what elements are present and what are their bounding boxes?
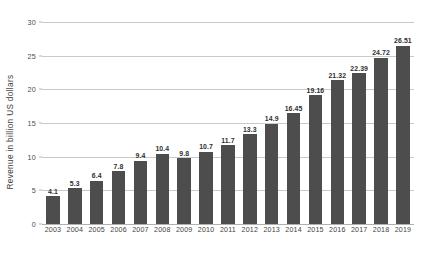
bar-value-label: 4.1 <box>48 188 58 197</box>
bar-slot: 10.7 <box>195 22 217 224</box>
y-axis-tick-label: 20 <box>28 85 36 94</box>
bar <box>331 80 345 224</box>
y-axis-tick-label: 25 <box>28 51 36 60</box>
x-axis-tick-label: 2009 <box>173 226 195 240</box>
x-axis-tick-label: 2010 <box>195 226 217 240</box>
bar-slot: 16.45 <box>283 22 305 224</box>
bar <box>68 188 82 224</box>
x-axis-tick-label: 2004 <box>64 226 86 240</box>
bar-value-label: 14.9 <box>265 115 279 124</box>
bar-value-label: 16.45 <box>285 105 303 114</box>
bar-value-label: 10.7 <box>199 143 213 152</box>
x-axis-tick-labels: 2003200420052006200720082009201020112012… <box>42 226 414 240</box>
y-axis-tick-label: 0 <box>32 220 36 229</box>
y-axis-tick-label: 10 <box>28 152 36 161</box>
bar <box>112 171 126 224</box>
gridline <box>42 224 414 225</box>
bar-slot: 14.9 <box>261 22 283 224</box>
plot-area: 051015202530 4.15.36.47.89.410.49.810.71… <box>42 22 414 224</box>
bar-value-label: 11.7 <box>221 137 234 146</box>
x-axis-tick-label: 2006 <box>108 226 130 240</box>
bar-slot: 19.16 <box>305 22 327 224</box>
bar-slot: 22.39 <box>348 22 370 224</box>
bar <box>243 134 257 224</box>
bar-value-label: 24.72 <box>372 49 390 58</box>
bar-value-label: 9.4 <box>135 152 145 161</box>
bar-slot: 11.7 <box>217 22 239 224</box>
bar-value-label: 19.16 <box>307 87 325 96</box>
x-axis-tick-label: 2008 <box>151 226 173 240</box>
bar-chart: Revenue in billion US dollars 0510152025… <box>0 0 434 264</box>
bar <box>265 124 279 224</box>
bar <box>309 95 323 224</box>
bar <box>199 152 213 224</box>
y-axis-tick-label: 30 <box>28 18 36 27</box>
bar-value-label: 22.39 <box>350 65 368 74</box>
y-axis-tick-label: 15 <box>28 119 36 128</box>
x-axis-tick-label: 2007 <box>130 226 152 240</box>
bar <box>90 181 104 224</box>
bar-value-label: 26.51 <box>394 37 412 46</box>
bar-slot: 10.4 <box>151 22 173 224</box>
bar-value-label: 7.8 <box>114 163 124 172</box>
bar-slot: 9.8 <box>173 22 195 224</box>
x-axis-tick-label: 2015 <box>305 226 327 240</box>
bar-slot: 7.8 <box>108 22 130 224</box>
bar <box>374 58 388 224</box>
bar <box>396 46 410 225</box>
bar-slot: 13.3 <box>239 22 261 224</box>
y-axis-tick-label: 5 <box>32 186 36 195</box>
y-axis-title: Revenue in billion US dollars <box>2 0 18 264</box>
x-axis-tick-label: 2017 <box>348 226 370 240</box>
bar-slot: 21.32 <box>326 22 348 224</box>
bar-value-label: 21.32 <box>328 72 346 81</box>
x-axis-tick-label: 2019 <box>392 226 414 240</box>
bar-value-label: 13.3 <box>243 126 257 135</box>
bar <box>177 158 191 224</box>
bar-slot: 5.3 <box>64 22 86 224</box>
x-axis-tick-label: 2014 <box>283 226 305 240</box>
x-axis-tick-label: 2016 <box>326 226 348 240</box>
bar <box>221 145 235 224</box>
bar-value-label: 9.8 <box>179 150 189 159</box>
bar-slot: 9.4 <box>130 22 152 224</box>
bar-slot: 4.1 <box>42 22 64 224</box>
x-axis-tick-label: 2018 <box>370 226 392 240</box>
bar <box>134 161 148 224</box>
x-axis-tick-label: 2012 <box>239 226 261 240</box>
bar <box>46 196 60 224</box>
bar <box>156 154 170 224</box>
x-axis-tick-label: 2005 <box>86 226 108 240</box>
bar-value-label: 5.3 <box>70 180 80 189</box>
x-axis-tick-label: 2013 <box>261 226 283 240</box>
bar-slot: 24.72 <box>370 22 392 224</box>
bar-slot: 26.51 <box>392 22 414 224</box>
x-axis-tick-label: 2003 <box>42 226 64 240</box>
bar-value-label: 10.4 <box>155 145 169 154</box>
bar-value-label: 6.4 <box>92 172 102 181</box>
bars-group: 4.15.36.47.89.410.49.810.711.713.314.916… <box>42 22 414 224</box>
bar-slot: 6.4 <box>86 22 108 224</box>
bar <box>352 73 366 224</box>
x-axis-tick-label: 2011 <box>217 226 239 240</box>
bar <box>287 113 301 224</box>
